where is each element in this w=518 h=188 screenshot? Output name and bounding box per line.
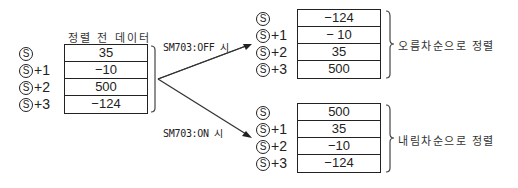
ascending-table: −124 − 10 35 500 (297, 9, 381, 79)
asc-label-0: S (256, 10, 271, 27)
desc-cell-0: 500 (298, 104, 380, 121)
s-device-icon: S (256, 157, 270, 171)
desc-label-1: S+1 (256, 121, 287, 138)
s-device-icon: S (256, 123, 270, 137)
desc-cell-3: −124 (298, 155, 380, 172)
asc-label-1: S+1 (256, 27, 287, 44)
condition-on-label: SM703:ON 시 (163, 125, 223, 140)
desc-label-2: S+2 (256, 138, 287, 155)
s-device-icon: S (256, 106, 270, 120)
asc-label-3: S+3 (256, 61, 287, 78)
source-brace-icon (151, 46, 155, 112)
s-device-icon: S (256, 12, 270, 26)
s-device-icon: S (256, 29, 270, 43)
desc-label-0: S (256, 104, 271, 121)
desc-label-3: S+3 (256, 155, 287, 172)
asc-brace-icon (386, 11, 394, 78)
s-device-icon: S (256, 140, 270, 154)
desc-brace-icon (386, 105, 394, 172)
descending-table: 500 35 −10 −124 (297, 103, 381, 173)
ascending-result-label: 오름차순으로 정렬 (398, 37, 495, 53)
asc-cell-0: −124 (298, 10, 380, 27)
descending-result-label: 내림차순으로 정렬 (398, 132, 495, 148)
asc-cell-3: 500 (298, 61, 380, 78)
asc-cell-1: − 10 (298, 27, 380, 44)
asc-label-2: S+2 (256, 44, 287, 61)
desc-cell-2: −10 (298, 138, 380, 155)
desc-cell-1: 35 (298, 121, 380, 138)
condition-off-label: SM703:OFF 시 (163, 39, 229, 54)
s-device-icon: S (256, 46, 270, 60)
s-device-icon: S (256, 63, 270, 77)
asc-cell-2: 35 (298, 44, 380, 61)
